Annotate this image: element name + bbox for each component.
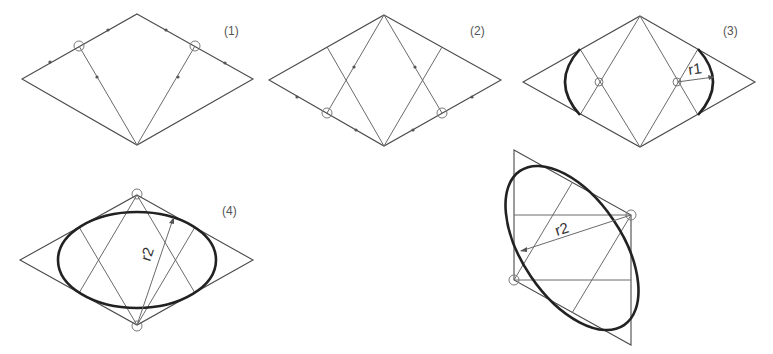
figure-3-step-small-arcs: r1 (3): [523, 16, 755, 147]
isometric-ellipse-vertical: [479, 143, 666, 353]
figure-label: (4): [222, 204, 237, 218]
construction-line: [137, 195, 195, 293]
tick-mark: [413, 65, 416, 68]
figure-4-step-large-arcs: r2 (4): [20, 189, 253, 331]
radius-r2-line: [137, 219, 173, 325]
tick-mark: [95, 75, 98, 78]
figure-1-step-midpoints: (1): [22, 14, 253, 145]
figure-label: (2): [470, 24, 485, 38]
tick-mark: [164, 28, 167, 31]
construction-line: [137, 227, 195, 325]
radius-r2-line: [521, 215, 631, 251]
tick-mark: [223, 61, 226, 64]
radius-label-r1: r1: [687, 59, 703, 78]
tick-mark: [295, 95, 298, 98]
tick-mark: [48, 60, 51, 63]
isometric-ellipse: [58, 212, 216, 308]
figure-5-vertical-plane-ellipse: r2: [479, 143, 666, 353]
tick-mark: [176, 75, 179, 78]
construction-line: [580, 49, 640, 147]
rhombus-4: [20, 195, 253, 325]
construction-line: [580, 16, 640, 115]
tick-mark: [354, 128, 357, 131]
tick-mark: [470, 95, 473, 98]
small-arc-left: [565, 49, 580, 115]
arrowhead-icon: [520, 247, 527, 252]
arc-center-marker: [132, 321, 142, 331]
rhombus-2: [269, 15, 501, 146]
construction-line: [384, 15, 442, 113]
construction-line: [327, 15, 384, 113]
figure-label: (1): [224, 24, 239, 38]
construction-line: [79, 46, 137, 145]
radius-r1-line: [677, 77, 714, 82]
arc-center-marker: [132, 189, 142, 199]
construction-line: [79, 195, 137, 293]
rhombus-3: [523, 16, 755, 147]
isometric-ellipse-construction-diagram: (1) (2) r1 (3): [0, 0, 773, 354]
rhombus-1: [22, 14, 253, 145]
construction-line: [79, 227, 137, 325]
construction-line: [572, 215, 631, 313]
tick-mark: [411, 128, 414, 131]
small-arc-right: [698, 49, 713, 115]
arrowhead-icon: [169, 217, 174, 224]
tick-mark: [352, 65, 355, 68]
tick-mark: [106, 28, 109, 31]
figure-2-step-perpendiculars: (2): [269, 15, 501, 146]
figure-label: (3): [723, 24, 738, 38]
radius-label-r2: r2: [137, 245, 157, 263]
construction-line: [137, 46, 195, 145]
